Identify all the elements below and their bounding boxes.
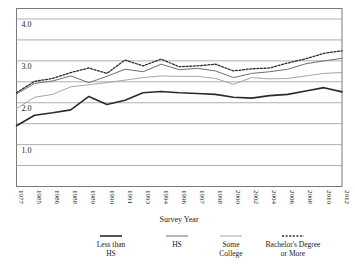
legend-label-2: Some [222,240,240,249]
x-axis-title: Survey Year [159,215,198,224]
legend-label-3-line2: or More [281,249,306,258]
y-tick-label-4: 4.0 [22,20,32,29]
x-tick-label-2002: 2002 [252,190,260,205]
line-chart: 4.03.02.01.0 197719851986198819891990199… [0,0,355,273]
x-tick-label-1991: 1991 [126,190,134,205]
legend-label-1: HS [172,240,182,249]
x-tick-label-1988: 1988 [71,190,79,205]
x-tick-label-1985: 1985 [35,190,43,205]
x-tick-label-1977: 1977 [17,190,25,205]
x-tick-label-2004: 2004 [270,190,278,205]
legend-label-0-line2: HS [106,249,116,258]
x-tick-label-1993: 1993 [144,190,152,205]
x-tick-label-1994: 1994 [162,190,170,205]
x-tick-label-2008: 2008 [306,190,314,205]
x-tick-label-1986: 1986 [53,190,61,205]
x-tick-label-2000: 2000 [234,190,242,205]
y-tick-label-3: 3.0 [22,62,32,71]
chart-canvas: 4.03.02.01.0 197719851986198819891990199… [0,0,355,273]
y-tick-label-1: 1.0 [22,146,32,155]
legend-label-3: Bachelor's Degree [266,240,322,249]
x-tick-label-1990: 1990 [108,190,116,205]
x-tick-label-1996: 1996 [180,190,188,205]
x-tick-label-1997: 1997 [198,190,206,205]
x-tick-label-2012: 2012 [343,190,351,205]
chart-background [0,0,355,273]
x-tick-label-1989: 1989 [89,190,97,205]
x-tick-label-2006: 2006 [288,190,296,205]
x-tick-label-1998: 1998 [216,190,224,205]
legend-label-0: Less than [97,240,126,249]
x-tick-label-2010: 2010 [325,190,333,205]
legend-label-2-line2: College [219,249,243,258]
